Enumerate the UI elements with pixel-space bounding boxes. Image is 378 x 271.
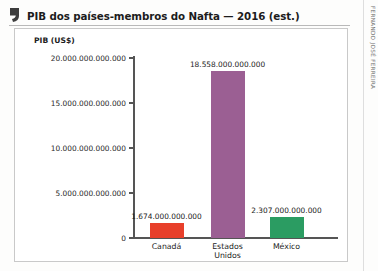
y-axis-title: PIB (US$): [34, 36, 75, 45]
credit-label: FERNANDO JOSÉ FERREIRA: [370, 6, 376, 89]
y-tick-mark: [129, 147, 134, 148]
y-tick-label: 10.000.000.000.000: [51, 144, 126, 153]
y-tick-mark: [129, 237, 134, 238]
y-tick-label: 20.000.000.000.000: [51, 54, 126, 63]
page-title: PIB dos países-membros do Nafta — 2016 (…: [27, 10, 300, 22]
quote-mark-icon: [9, 8, 21, 23]
bar-value-label: 1.674.000.000.000: [131, 212, 202, 221]
category-label: México: [273, 242, 300, 251]
y-tick-label: 5.000.000.000.000: [55, 189, 126, 198]
category-label: Canadá: [152, 242, 182, 251]
y-tick-mark: [129, 102, 134, 103]
bar-2[interactable]: [211, 71, 245, 238]
bar-value-label: 18.558.000.000.000: [190, 60, 265, 69]
category-label: Estados Unidos: [212, 242, 243, 261]
chart-figure: PIB dos países-membros do Nafta — 2016 (…: [0, 0, 378, 271]
title-divider: [9, 25, 350, 26]
chart-title-row: PIB dos países-membros do Nafta — 2016 (…: [9, 6, 349, 25]
y-tick-mark: [129, 57, 134, 58]
credit-text: FERNANDO JOSÉ FERREIRA: [365, 4, 377, 154]
bar-3[interactable]: [270, 217, 304, 238]
credit-divider: [363, 0, 364, 271]
y-tick-label: 0: [121, 234, 126, 243]
y-tick-mark: [129, 192, 134, 193]
bar-1[interactable]: [150, 223, 184, 238]
y-tick-label: 15.000.000.000.000: [51, 99, 126, 108]
bar-value-label: 2.307.000.000.000: [251, 206, 322, 215]
